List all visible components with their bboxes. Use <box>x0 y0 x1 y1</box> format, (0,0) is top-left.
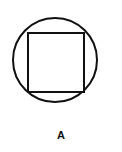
figure-label: A <box>0 129 122 141</box>
figure-canvas: A <box>0 0 122 152</box>
inscribed-square-shape <box>28 33 84 92</box>
